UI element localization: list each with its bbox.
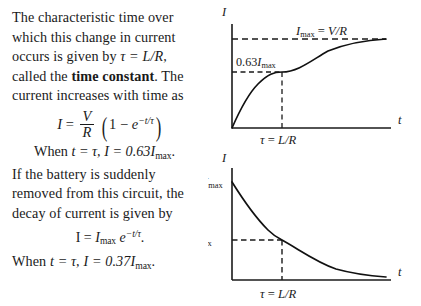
eq-decay-lhs: I xyxy=(76,229,81,244)
body-line-battery-3: decay of current is given by xyxy=(12,204,208,224)
x-marker-label: τ = L/R xyxy=(260,133,296,147)
when-period-2: . xyxy=(152,253,156,269)
body-line-when-tau-2: When t = τ, I = 0.37Imax. xyxy=(12,252,208,275)
y-marker-sub: max xyxy=(261,61,276,70)
eq-growth-minus: − xyxy=(120,116,128,132)
body-line-5: current increases with time as xyxy=(12,86,208,106)
x-marker-lr: L/R xyxy=(277,133,297,147)
y-axis-label: I xyxy=(221,152,227,165)
equation-current-growth: I = V R (1 − e−t/τ) xyxy=(12,106,208,142)
eq-growth-equals: = xyxy=(66,116,74,132)
body-line-4: called the time constant. The xyxy=(12,67,208,87)
chart-current-decay: I t Imax 0.37Imax τ = L/R xyxy=(208,152,421,306)
body-text-column: The characteristic time over which this … xyxy=(12,8,208,275)
eq-decay-exponent: −t/τ xyxy=(126,229,141,239)
body-line-battery-1: If the battery is suddenly xyxy=(12,165,208,185)
y-start-label: Imax xyxy=(208,175,223,190)
eq-growth-paren-open: ( xyxy=(102,118,108,138)
y-marker-value: 0.63 xyxy=(236,55,257,69)
growth-curve xyxy=(232,39,386,128)
eq-growth-lhs: I xyxy=(57,116,62,132)
eq-decay-imax-sub: max xyxy=(100,236,116,246)
eq-decay-equals: = xyxy=(84,229,92,244)
when-label-2: When xyxy=(12,253,46,269)
chart-current-growth: I t Imax = V/R 0.63Imax τ = L/R xyxy=(208,2,421,152)
y-axis-label: I xyxy=(221,5,227,19)
when-math-2: t = τ, I = 0.37I xyxy=(50,253,135,269)
x-marker-label: τ = L/R xyxy=(260,287,296,301)
body-line-4-prefix: called the xyxy=(12,68,68,84)
eq-growth-denominator: R xyxy=(80,124,95,140)
when-period-1: . xyxy=(171,143,175,159)
eq-decay-period: . xyxy=(141,229,145,244)
when-label-1: When xyxy=(34,143,68,159)
page-canvas: The characteristic time over which this … xyxy=(0,0,421,306)
body-line-1: The characteristic time over xyxy=(12,8,208,28)
x-axis-label: t xyxy=(398,113,402,127)
chart-current-decay-svg: I t Imax 0.37Imax τ = L/R xyxy=(208,152,421,306)
body-line-battery-2: removed from this circuit, the xyxy=(12,184,208,204)
eq-growth-one: 1 xyxy=(109,116,116,132)
y-marker-sub: max xyxy=(208,239,213,248)
body-line-3: occurs is given by τ = L/R, xyxy=(12,47,208,67)
x-marker-equals: = xyxy=(265,287,278,301)
eq-growth-paren-close: ) xyxy=(155,118,161,138)
eq-growth-numerator: V xyxy=(80,109,95,124)
asymptote-label-equals: = xyxy=(315,24,328,38)
chart-current-growth-svg: I t Imax = V/R 0.63Imax τ = L/R xyxy=(208,2,421,152)
eq-growth-exponent: −t/τ xyxy=(138,115,154,126)
x-axis-label: t xyxy=(398,265,402,279)
when-sub-2: max xyxy=(135,259,151,270)
equation-current-decay: I = Imax e−t/τ. xyxy=(12,224,208,252)
when-sub-1: max xyxy=(155,149,171,160)
body-line-4-suffix: . The xyxy=(154,68,183,84)
x-marker-equals: = xyxy=(265,133,278,147)
tau-definition-inline: τ = L/R, xyxy=(120,48,167,64)
when-math-1: t = τ, I = 0.63I xyxy=(71,143,155,159)
eq-growth-fraction: V R xyxy=(80,109,95,140)
asymptote-label-sub: max xyxy=(300,30,315,39)
asymptote-label: Imax = V/R xyxy=(295,24,347,39)
body-line-3-text: occurs is given by xyxy=(12,48,117,64)
y-marker-label: 0.63Imax xyxy=(236,55,277,70)
y-marker-label: 0.37Imax xyxy=(208,233,213,248)
body-line-when-tau-1: When t = τ, I = 0.63Imax. xyxy=(12,142,208,165)
body-line-2: which this change in current xyxy=(12,28,208,48)
time-constant-term: time constant xyxy=(71,68,154,84)
decay-curve xyxy=(232,182,386,277)
x-marker-lr: L/R xyxy=(277,287,297,301)
asymptote-label-vr: V/R xyxy=(328,24,347,38)
y-start-sub: max xyxy=(208,181,223,190)
